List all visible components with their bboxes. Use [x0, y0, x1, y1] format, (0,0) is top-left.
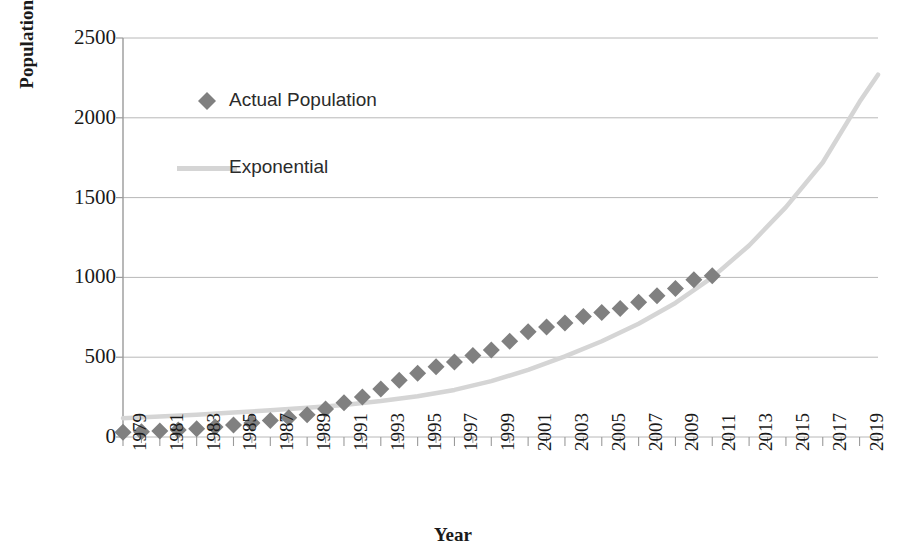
data-point-marker — [483, 342, 500, 359]
data-point-marker — [612, 300, 629, 317]
chart-container: Population [10000 person] 05001000150020… — [0, 0, 906, 556]
x-tick-label: 2017 — [830, 413, 849, 451]
data-point-marker — [649, 287, 666, 304]
x-tick-label: 1999 — [498, 413, 517, 451]
x-tick-label: 2019 — [867, 413, 886, 451]
data-point-marker — [593, 304, 610, 321]
x-tick-label: 2003 — [572, 413, 591, 451]
data-point-marker — [520, 323, 537, 340]
x-tick-label: 2013 — [756, 413, 775, 451]
data-point-marker — [391, 372, 408, 389]
data-point-marker — [538, 318, 555, 335]
legend-marker-line — [177, 166, 237, 171]
x-tick-label: 2005 — [609, 413, 628, 451]
x-tick-label: 1989 — [314, 413, 333, 451]
data-point-marker — [409, 365, 426, 382]
x-tick-label: 1979 — [130, 413, 149, 451]
data-point-marker — [372, 381, 389, 398]
x-tick-label: 1981 — [167, 413, 186, 451]
x-tick-label: 1997 — [461, 413, 480, 451]
data-point-marker — [501, 333, 518, 350]
x-axis-title: Year — [0, 524, 906, 546]
x-tick-label: 1993 — [388, 413, 407, 451]
plot-canvas — [0, 0, 906, 556]
data-point-marker — [428, 358, 445, 375]
x-tick-label: 2009 — [682, 413, 701, 451]
x-tick-label: 2011 — [719, 414, 738, 451]
data-point-marker — [335, 394, 352, 411]
data-point-marker — [630, 294, 647, 311]
x-tick-label: 1995 — [425, 413, 444, 451]
x-tick-label: 1983 — [204, 413, 223, 451]
data-point-marker — [575, 308, 592, 325]
x-tick-label: 2001 — [535, 413, 554, 451]
x-tick-label: 1985 — [240, 413, 259, 451]
x-tick-label: 2015 — [793, 413, 812, 451]
data-point-marker — [464, 347, 481, 364]
x-tick-label: 1991 — [351, 413, 370, 451]
data-point-marker — [556, 314, 573, 331]
legend-marker-diamond — [194, 88, 220, 114]
data-point-marker — [446, 353, 463, 370]
x-tick-label: 2007 — [646, 413, 665, 451]
data-point-marker — [667, 280, 684, 297]
legend-label: Actual Population — [229, 89, 377, 111]
exponential-trend-line — [123, 75, 878, 418]
x-tick-label: 1987 — [277, 413, 296, 451]
legend-label: Exponential — [229, 156, 328, 178]
